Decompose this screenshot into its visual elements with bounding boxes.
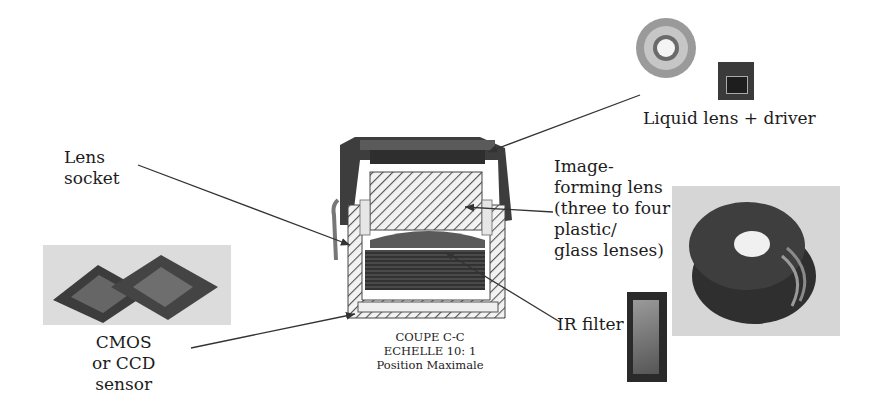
ir-filter-image xyxy=(627,292,667,382)
lens-driver-chip-image xyxy=(718,62,754,100)
lens-socket-label: Lens socket xyxy=(64,147,120,189)
sensor-chips-image xyxy=(43,245,231,325)
liquid-lens-driver-label: Liquid lens + driver xyxy=(643,108,816,129)
image-forming-lens-label: Image- forming lens (three to four plast… xyxy=(554,156,670,261)
ir-filter-label: IR filter xyxy=(557,314,624,335)
caption-line-1: COUPE C-C xyxy=(375,330,485,344)
image-forming-lens-image xyxy=(672,186,840,336)
liquid-lens-image xyxy=(636,10,696,100)
sensor-label: CMOS or CCD sensor xyxy=(92,332,155,395)
caption-line-3: Position Maximale xyxy=(375,358,485,372)
section-caption: COUPE C-C ECHELLE 10: 1 Position Maximal… xyxy=(375,330,485,372)
lens-socket-arrow xyxy=(138,165,350,245)
caption-line-2: ECHELLE 10: 1 xyxy=(375,344,485,358)
camera-module-cross-section xyxy=(334,137,513,318)
liquid-lens-arrow xyxy=(488,95,640,152)
